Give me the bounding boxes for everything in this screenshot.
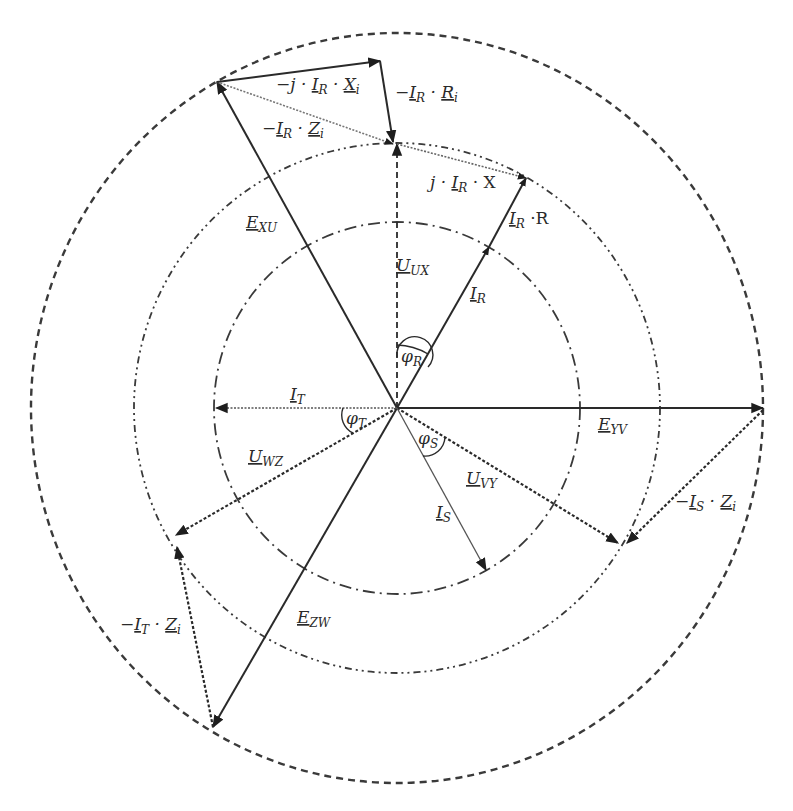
label-i-r-r: IR ·R bbox=[508, 208, 550, 231]
phasor-i-s bbox=[397, 408, 486, 570]
label-u-wz: UWZ bbox=[248, 446, 284, 469]
phasor-minus-i-s-z-i bbox=[627, 410, 763, 543]
label-e-yv: EYV bbox=[597, 414, 628, 437]
label-i-r: IR bbox=[469, 283, 486, 306]
label-minus-i-s-z-i: −IS · Zi bbox=[675, 491, 736, 514]
phasor-j-i-r-x bbox=[397, 144, 526, 178]
label-j-i-r-x: j · IR · X bbox=[426, 172, 496, 195]
phasor-minus-i-r-r-i bbox=[380, 61, 393, 142]
label-minus-i-r-r-i: −IR · Ri bbox=[395, 82, 458, 105]
label-minus-j-i-r-x-i: −j · IR · Xi bbox=[276, 74, 360, 97]
phasor-minus-i-t-z-i bbox=[177, 547, 213, 727]
phasor-diagram: EXU UUX IR IR ·R j · IR · X −IR · Zi −j … bbox=[0, 0, 793, 811]
label-minus-i-t-z-i: −IT · Zi bbox=[120, 614, 181, 637]
label-minus-i-r-z-i: −IR · Zi bbox=[262, 118, 324, 141]
label-u-vy: UVY bbox=[466, 468, 498, 491]
label-e-zw: EZW bbox=[296, 607, 332, 630]
phasor-e-zw bbox=[213, 408, 397, 727]
label-i-s: IS bbox=[435, 502, 451, 525]
phasor-u-vy bbox=[397, 408, 618, 543]
label-phi-t: φT bbox=[346, 408, 367, 431]
label-i-t: IT bbox=[289, 384, 306, 407]
label-phi-s: φS bbox=[418, 428, 438, 451]
label-e-xu: EXU bbox=[245, 212, 278, 235]
label-u-ux: UUX bbox=[396, 255, 429, 278]
